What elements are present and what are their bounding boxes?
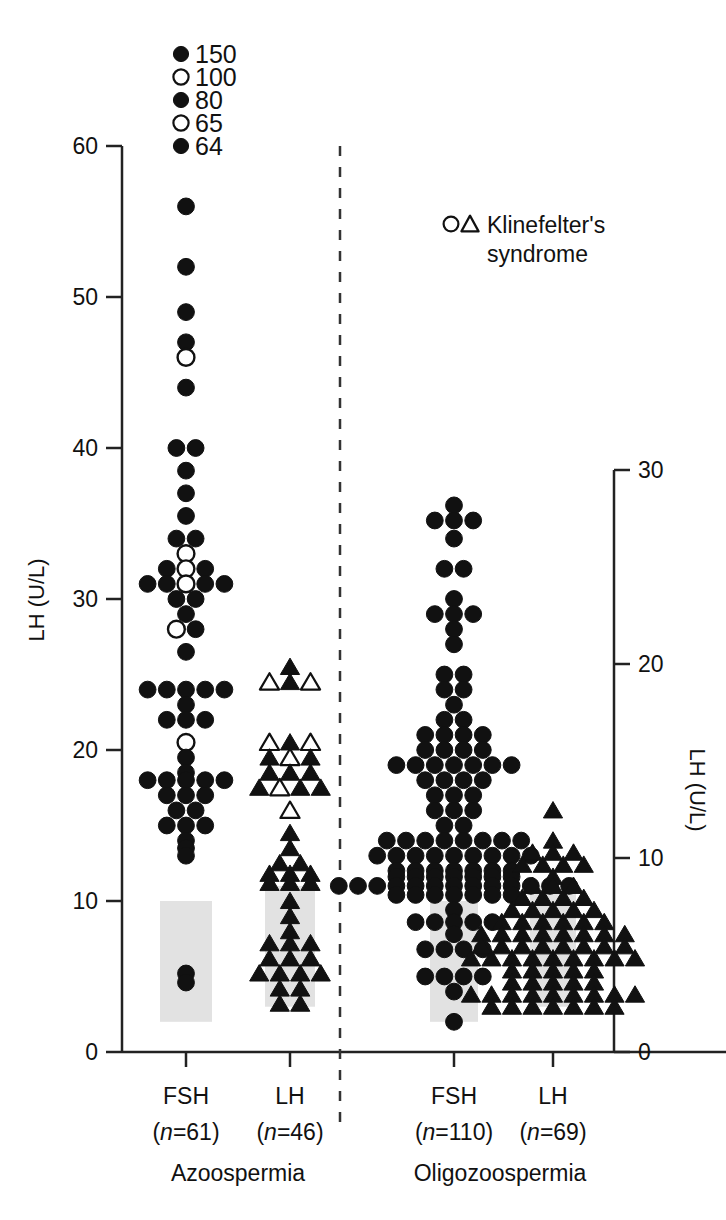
data-point-filled-circle (446, 887, 463, 904)
data-point-filled-circle (197, 681, 214, 698)
data-point-filled-circle (455, 727, 472, 744)
right-axis-tick-label: 20 (638, 651, 664, 677)
data-point-open-triangle (280, 802, 299, 818)
data-point-filled-circle (446, 591, 463, 608)
data-point-filled-triangle (280, 734, 299, 750)
data-point-filled-circle (455, 681, 472, 698)
group-label: FSH (431, 1083, 477, 1109)
data-point-filled-circle (474, 742, 491, 759)
data-point-open-circle (168, 621, 185, 638)
data-point-filled-triangle (543, 802, 562, 818)
data-point-filled-circle (446, 926, 463, 943)
legend-open-triangle-icon (461, 216, 478, 232)
left-axis-tick-label: 60 (72, 133, 98, 159)
data-point-filled-circle (455, 968, 472, 985)
data-point-filled-circle (474, 968, 491, 985)
data-point-filled-circle (436, 772, 453, 789)
group-n-label: (n=61) (152, 1119, 219, 1145)
data-point-filled-circle (158, 681, 175, 698)
data-point-filled-circle (178, 485, 195, 502)
data-point-filled-triangle (625, 986, 644, 1002)
data-point-filled-circle (426, 847, 443, 864)
offscale-filled-circle-icon (173, 92, 188, 107)
chart-svg: 01020304050600102030LH (U/L)LH (U/L)1501… (0, 0, 726, 1220)
data-point-open-circle (178, 349, 195, 366)
data-point-filled-circle (158, 772, 175, 789)
data-point-open-triangle (260, 673, 279, 689)
data-point-filled-circle (417, 772, 434, 789)
data-point-open-circle (178, 734, 195, 751)
data-point-filled-circle (187, 621, 204, 638)
left-axis-tick-label: 50 (72, 284, 98, 310)
data-point-filled-circle (426, 606, 443, 623)
data-point-filled-triangle (280, 824, 299, 840)
data-point-filled-circle (484, 757, 501, 774)
legend-open-circle-icon (444, 217, 459, 232)
data-point-filled-circle (417, 727, 434, 744)
data-point-filled-circle (417, 968, 434, 985)
data-point-filled-circle (178, 462, 195, 479)
data-point-filled-circle (158, 787, 175, 804)
data-point-filled-circle (446, 621, 463, 638)
right-axis-tick-label: 0 (638, 1039, 651, 1065)
data-point-filled-triangle (260, 764, 279, 780)
data-point-filled-triangle (280, 839, 299, 855)
group-n-label: (n=110) (415, 1119, 493, 1145)
data-point-filled-circle (446, 1013, 463, 1030)
klinefelter-legend-label-line2: syndrome (487, 241, 588, 267)
data-point-filled-circle (139, 772, 156, 789)
left-axis-tick-label: 0 (85, 1039, 98, 1065)
data-point-filled-circle (388, 887, 405, 904)
data-point-filled-triangle (301, 749, 320, 765)
data-point-filled-circle (474, 727, 491, 744)
group-label: LH (538, 1083, 567, 1109)
data-point-open-triangle (270, 779, 289, 795)
data-point-filled-triangle (280, 764, 299, 780)
data-point-filled-circle (187, 591, 204, 608)
data-point-filled-circle (197, 787, 214, 804)
offscale-legend: 150100806564 (173, 40, 236, 160)
data-point-filled-circle (513, 832, 530, 849)
data-point-filled-circle (436, 711, 453, 728)
left-axis-tick-label: 30 (72, 586, 98, 612)
data-point-filled-circle (178, 711, 195, 728)
data-point-filled-circle (168, 591, 185, 608)
data-point-filled-circle (216, 681, 233, 698)
data-point-filled-circle (484, 847, 501, 864)
data-point-filled-circle (178, 817, 195, 834)
data-point-filled-circle (178, 847, 195, 864)
data-point-filled-circle (446, 606, 463, 623)
data-point-filled-circle (446, 787, 463, 804)
klinefelter-legend: Klinefelter'ssyndrome (444, 212, 606, 267)
data-point-filled-circle (178, 304, 195, 321)
data-point-filled-circle (436, 560, 453, 577)
chart-figure: 01020304050600102030LH (U/L)LH (U/L)1501… (0, 0, 726, 1220)
data-point-filled-circle (465, 606, 482, 623)
data-point-filled-circle (465, 512, 482, 529)
data-point-filled-circle (388, 757, 405, 774)
group-n-label: (n=46) (256, 1119, 323, 1145)
data-point-filled-circle (197, 711, 214, 728)
offscale-value-label: 64 (195, 132, 223, 160)
data-point-filled-circle (178, 787, 195, 804)
left-axis-title: LH (U/L) (24, 558, 49, 641)
data-point-filled-triangle (280, 658, 299, 674)
right-axis-title: LH (U/L) (685, 748, 710, 831)
data-point-filled-circle (187, 802, 204, 819)
data-point-filled-circle (465, 787, 482, 804)
data-point-filled-circle (455, 742, 472, 759)
data-point-filled-triangle (270, 854, 289, 870)
data-point-filled-triangle (564, 844, 583, 860)
data-point-filled-circle (426, 914, 443, 931)
data-point-open-triangle (260, 734, 279, 750)
data-point-filled-triangle (250, 779, 269, 795)
data-point-open-circle (178, 576, 195, 593)
data-point-filled-circle (197, 560, 214, 577)
data-point-filled-circle (178, 198, 195, 215)
data-point-filled-circle (407, 847, 424, 864)
data-point-filled-circle (465, 847, 482, 864)
left-axis-tick-label: 20 (72, 737, 98, 763)
data-point-filled-circle (446, 847, 463, 864)
data-point-filled-circle (168, 440, 185, 457)
data-point-filled-circle (197, 817, 214, 834)
